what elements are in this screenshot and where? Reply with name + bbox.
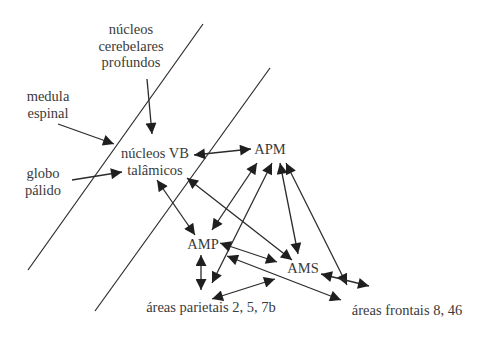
arrow-vb-amp (157, 180, 195, 235)
label-line: AMP (187, 236, 218, 253)
arrow-apm-amp (212, 163, 257, 230)
label-line: áreas parietais 2, 5, 7b (146, 299, 276, 316)
label-line: globo (25, 165, 61, 182)
arrow-cerebellar-to-vb (147, 79, 152, 134)
label-line: profundos (98, 54, 163, 71)
arrow-apm-parietal (212, 163, 272, 283)
label-line: áreas frontais 8, 46 (352, 302, 462, 319)
arrow-amp-frontal (227, 256, 341, 300)
arrow-ams-frontal (321, 274, 369, 286)
label-frontal-areas: áreas frontais 8, 46 (352, 302, 462, 319)
diagram-canvas (0, 0, 484, 337)
arrow-ams-parietal (212, 279, 275, 299)
separator-line-2 (95, 68, 270, 311)
arrow-apm-ams (280, 163, 298, 254)
label-ams: AMS (287, 260, 318, 277)
label-globus-pallidus: globo pálido (25, 165, 61, 198)
arrow-amp-ams (220, 243, 277, 262)
label-line: pálido (25, 182, 61, 199)
label-vb-thalamic-nuclei: núcleos VB talâmicos (121, 145, 189, 178)
label-line: talâmicos (121, 162, 189, 179)
label-line: núcleos (98, 21, 163, 38)
arrow-vb-apm (194, 149, 251, 155)
label-line: núcleos VB (121, 145, 189, 162)
label-line: APM (254, 141, 285, 158)
label-cerebellar-nuclei: núcleos cerebelares profundos (98, 21, 163, 71)
label-line: AMS (287, 260, 318, 277)
label-line: cerebelares (98, 38, 163, 55)
label-amp: AMP (187, 236, 218, 253)
neural-pathway-diagram: núcleos cerebelares profundos medula esp… (0, 0, 484, 337)
label-spinal-cord: medula espinal (27, 88, 70, 121)
label-line: medula (27, 88, 70, 105)
label-line: espinal (27, 105, 70, 122)
label-apm: APM (254, 141, 285, 158)
arrow-spinal-to-vb (58, 124, 114, 144)
label-parietal-areas: áreas parietais 2, 5, 7b (146, 299, 276, 316)
